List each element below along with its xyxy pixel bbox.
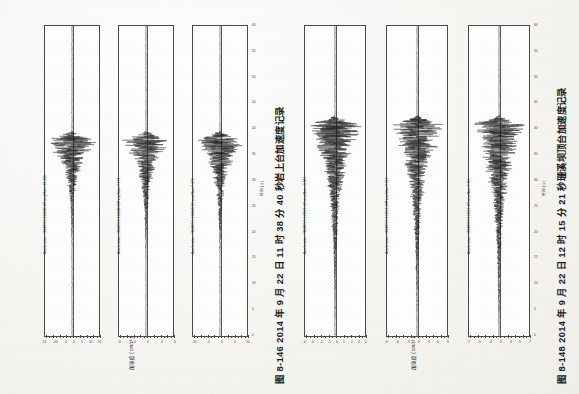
- figure-caption: 图 8-146 2014 年 9 月 22 日 11 时 38 分 40 秒岩上…: [272, 107, 286, 384]
- time-axis-ticks: 60 55 50 45 40 35 30 25 20 15 10 5 0: [534, 23, 538, 337]
- tick-label: 0: [336, 340, 338, 344]
- tick-label: 0: [221, 340, 223, 344]
- tick-label: -10: [192, 340, 196, 344]
- axis-tick-marks: [387, 26, 449, 338]
- tick-label: 3: [358, 340, 360, 344]
- time-tick-label: 25: [252, 204, 256, 208]
- time-tick-label: 15: [534, 255, 538, 259]
- time-axis-label: 时间 ( s ): [259, 181, 264, 196]
- tick-label: -6: [396, 340, 399, 344]
- time-axis-ticks: 60 55 50 45 40 35 30 25 20 15 10 5 0: [252, 23, 256, 337]
- tick-label: -3: [311, 340, 314, 344]
- axis-tick-marks: [305, 26, 367, 338]
- amplitude-tick-labels: -8 -4 0 4 8: [118, 340, 176, 344]
- tick-label: 4: [161, 340, 163, 344]
- time-tick-label: 60: [534, 23, 538, 27]
- tick-label: 0: [500, 340, 502, 344]
- plot-panel: Acceleration: 20140922-121521-EW ampMax=…: [386, 25, 448, 337]
- time-tick-label: 20: [534, 230, 538, 234]
- time-tick-label: 0: [534, 333, 536, 337]
- time-tick-label: 45: [534, 100, 538, 104]
- time-tick-label: 45: [252, 100, 256, 104]
- plot-panel: Acceleration: 20140922-121521-UD ampMax=…: [304, 25, 366, 337]
- tick-label: -15: [42, 340, 46, 344]
- tick-label: 1: [343, 340, 345, 344]
- time-tick-label: 10: [252, 281, 256, 285]
- plot-panel: Acceleration: 20140922-121521-NS ampMax=…: [468, 25, 530, 337]
- amplitude-tick-labels: -7 -5 -3 0 3 5 7: [467, 340, 531, 344]
- tick-label: 9: [447, 340, 449, 344]
- acceleration-axis-label: 加速度 ( cm/s² ): [410, 337, 416, 370]
- time-tick-label: 35: [534, 152, 538, 156]
- plot-panel: Acceleration: 20140922-113840-EW ampMax=…: [118, 25, 174, 337]
- tick-label: 6: [437, 340, 439, 344]
- time-tick-label: 50: [252, 75, 256, 79]
- tick-label: -1: [328, 340, 331, 344]
- tick-label: 5: [234, 340, 236, 344]
- axis-tick-marks: [193, 26, 249, 338]
- plot-panel: Acceleration: 20140922-113840-UD ampMax=…: [44, 25, 100, 337]
- tick-label: -2: [320, 340, 323, 344]
- time-tick-label: 55: [252, 49, 256, 53]
- time-tick-label: 10: [534, 281, 538, 285]
- tick-label: -10: [53, 340, 57, 344]
- tick-label: 8: [174, 340, 176, 344]
- time-tick-label: 25: [534, 204, 538, 208]
- time-tick-label: 55: [534, 49, 538, 53]
- tick-label: 5: [81, 340, 83, 344]
- tick-label: 4: [365, 340, 367, 344]
- scanned-page: Acceleration: 20140922-113840-UD ampMax=…: [0, 0, 579, 394]
- figure-caption: 图 8-148 2014 年 9 月 22 日 12 时 15 分 21 秒珊溪…: [554, 87, 568, 384]
- time-tick-label: 50: [534, 75, 538, 79]
- figure-8-146: Acceleration: 20140922-113840-UD ampMax=…: [0, 0, 290, 394]
- time-tick-label: 40: [534, 126, 538, 130]
- time-tick-label: 60: [252, 23, 256, 27]
- amplitude-tick-labels: -9 -6 -3 0 3 6 9: [385, 340, 449, 344]
- amplitude-tick-labels: -4 -3 -2 -1 0 1 2 3 4: [303, 340, 367, 344]
- tick-label: 10: [89, 340, 92, 344]
- tick-label: 15: [98, 340, 101, 344]
- tick-label: -3: [489, 340, 492, 344]
- axis-tick-marks: [45, 26, 101, 338]
- amplitude-tick-labels: -10 -5 0 5 10: [192, 340, 250, 344]
- axis-tick-marks: [119, 26, 175, 338]
- time-tick-label: 20: [252, 230, 256, 234]
- acceleration-axis-label: 加速度 ( cm/s² ): [128, 337, 134, 370]
- tick-label: -8: [118, 340, 121, 344]
- tick-label: 3: [510, 340, 512, 344]
- time-tick-label: 40: [252, 126, 256, 130]
- tick-label: 10: [247, 340, 250, 344]
- axis-tick-marks: [469, 26, 531, 338]
- amplitude-tick-labels: -15 -10 -5 0 5 10 15: [42, 340, 102, 344]
- time-tick-label: 5: [534, 307, 536, 311]
- time-tick-label: 30: [534, 178, 538, 182]
- time-tick-label: 0: [252, 333, 254, 337]
- tick-label: -7: [467, 340, 470, 344]
- plot-panel: Acceleration: 20140922-113840-NS ampMax=…: [192, 25, 248, 337]
- tick-label: -9: [385, 340, 388, 344]
- figure-8-148: Acceleration: 20140922-121521-UD ampMax=…: [290, 0, 579, 394]
- tick-label: -5: [208, 340, 211, 344]
- tick-label: -5: [478, 340, 481, 344]
- tick-label: -5: [64, 340, 67, 344]
- tick-label: 0: [147, 340, 149, 344]
- tick-label: 0: [73, 340, 75, 344]
- tick-label: 0: [418, 340, 420, 344]
- time-tick-label: 15: [252, 255, 256, 259]
- tick-label: 5: [519, 340, 521, 344]
- time-axis-label: 时间 ( s ): [541, 181, 546, 196]
- time-tick-label: 35: [252, 152, 256, 156]
- tick-label: 3: [428, 340, 430, 344]
- tick-label: -4: [303, 340, 306, 344]
- tick-label: 2: [351, 340, 353, 344]
- tick-label: 7: [529, 340, 531, 344]
- time-tick-label: 30: [252, 178, 256, 182]
- time-tick-label: 5: [252, 307, 254, 311]
